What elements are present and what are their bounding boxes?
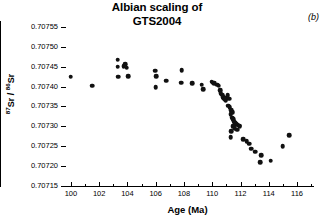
chart-title: Albian scaling of GTS2004 [62,1,252,28]
data-point [281,144,286,149]
x-axis-minor-tick [255,184,256,187]
data-point [153,68,158,73]
x-axis-tick-label: 104 [121,189,134,198]
x-axis-tick [127,182,128,187]
y-axis-tick [61,27,66,28]
data-point [115,57,120,62]
data-point [124,65,129,70]
y-axis-tick-label: 0.70740 [31,82,58,91]
data-point [116,74,121,79]
data-point [228,135,233,140]
data-point [69,74,74,79]
y-axis-tick [61,47,66,48]
data-point [115,64,120,69]
y-axis-tick [61,186,66,187]
y-axis-tick-label: 0.70725 [31,141,58,150]
chart-title-line-1: Albian scaling of [62,1,252,15]
data-point [180,68,185,73]
y-axis-tick [61,87,66,88]
y-axis-tick [61,166,66,167]
x-axis-tick-label: 108 [178,189,191,198]
data-point [201,87,206,92]
y-axis-tick [61,146,66,147]
x-axis-minor-tick [198,184,199,187]
x-axis-tick [241,182,242,187]
x-axis-minor-tick [85,184,86,187]
x-axis-tick [212,182,213,187]
y-axis-tick [61,106,66,107]
y-axis-tick-label: 0.70720 [31,161,58,170]
data-point [287,133,292,138]
chart-title-line-2: GTS2004 [62,15,252,29]
x-axis-minor-tick [311,184,312,187]
x-axis-tick [297,182,298,187]
x-axis-tick-label: 112 [235,189,247,198]
y-axis-tick [61,67,66,68]
data-point [253,150,258,155]
data-point [154,74,159,79]
x-axis-minor-tick [170,184,171,187]
data-point [179,80,184,85]
x-axis-tick-label: 110 [206,189,218,198]
data-point [258,160,263,165]
y-axis-tick-label: 0.70735 [31,101,58,110]
panel-label: (b) [308,12,319,22]
x-axis-tick-label: 100 [65,189,78,198]
data-point [227,96,232,101]
x-axis-minor-tick [113,184,114,187]
strontium-isotope-scatter-chart: Albian scaling of GTS2004 (b) 87Sr / 86S… [0,0,325,223]
data-point [190,81,195,86]
data-point [229,129,234,134]
y-axis-tick-label: 0.70745 [31,62,58,71]
x-axis-minor-tick [226,184,227,187]
x-axis-minor-tick [283,184,284,187]
y-axis-tick-label: 0.70750 [31,42,58,51]
data-point [126,74,131,79]
x-axis-tick [269,182,270,187]
y-axis-tick [61,126,66,127]
x-axis-minor-tick [142,184,143,187]
data-point [269,158,274,163]
y-axis-tick-label: 0.70755 [31,22,58,31]
x-axis-title: Age (Ma) [61,204,314,215]
data-point [153,85,158,90]
x-axis-tick [71,182,72,187]
x-axis-tick-label: 102 [93,189,106,198]
x-axis-tick [184,182,185,187]
x-axis-tick [156,182,157,187]
y-axis-spine [0,21,1,187]
y-axis-tick-label: 0.70730 [31,121,58,130]
data-point [259,153,264,158]
data-point [237,124,242,129]
data-point [90,84,95,89]
x-axis-tick-label: 114 [263,189,275,198]
y-axis-tick-label: 0.70715 [31,181,58,190]
x-axis-tick [99,182,100,187]
x-axis-tick-label: 106 [149,189,162,198]
data-point [164,78,169,83]
x-axis-tick-label: 116 [291,189,303,198]
y-axis-title: 87Sr / 86Sr [4,54,16,134]
